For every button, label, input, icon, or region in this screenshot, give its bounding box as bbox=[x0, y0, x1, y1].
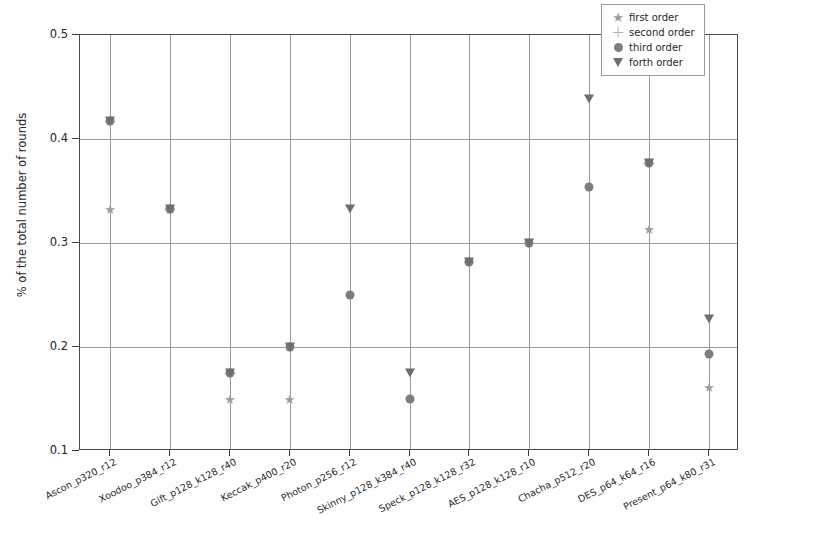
y-tick-mark bbox=[72, 34, 79, 35]
chart-figure: ＋＋＋＋＋＋＋★★★★★★ % of the total number of r… bbox=[0, 0, 813, 537]
data-point: ★ bbox=[104, 204, 116, 213]
x-tick-label: Speck_p128_k128_r32 bbox=[377, 456, 477, 514]
gridline-horizontal bbox=[80, 243, 737, 244]
data-point bbox=[405, 395, 414, 404]
legend-label: forth order bbox=[629, 57, 683, 68]
data-point bbox=[644, 158, 654, 167]
gridline-horizontal bbox=[80, 347, 737, 348]
legend-label: second order bbox=[629, 27, 695, 38]
y-tick-label: 0.3 bbox=[28, 235, 68, 249]
gridline-horizontal bbox=[80, 139, 737, 140]
gridline-vertical bbox=[410, 35, 411, 449]
x-tick-label: Skinny_p128_k384_r40 bbox=[315, 456, 418, 516]
y-tick-label: 0.2 bbox=[28, 339, 68, 353]
y-tick-label: 0.1 bbox=[28, 443, 68, 457]
x-tick-mark bbox=[169, 450, 170, 456]
y-axis-label: % of the total number of rounds bbox=[15, 35, 29, 375]
gridline-vertical bbox=[469, 35, 470, 449]
data-point bbox=[585, 182, 594, 191]
x-tick-mark bbox=[289, 450, 290, 456]
chart-legend: ★first order＋second orderthird orderfort… bbox=[601, 4, 705, 76]
data-point bbox=[464, 257, 474, 266]
data-point bbox=[705, 350, 714, 359]
gridline-vertical bbox=[350, 35, 351, 449]
data-point: ★ bbox=[703, 382, 715, 391]
data-point bbox=[704, 314, 714, 323]
data-point bbox=[345, 204, 355, 213]
data-point: ★ bbox=[284, 395, 296, 404]
legend-item[interactable]: forth order bbox=[607, 55, 695, 70]
legend-marker-icon: ＋ bbox=[607, 26, 629, 39]
x-tick-mark bbox=[528, 450, 529, 456]
y-tick-mark bbox=[72, 450, 79, 451]
legend-marker-icon bbox=[607, 41, 629, 54]
data-point bbox=[105, 117, 115, 126]
gridline-vertical bbox=[110, 35, 111, 449]
data-point bbox=[405, 369, 415, 378]
x-tick-mark bbox=[588, 450, 589, 456]
legend-marker-icon bbox=[607, 56, 629, 69]
x-tick-mark bbox=[229, 450, 230, 456]
y-tick-mark bbox=[72, 242, 79, 243]
data-point: ★ bbox=[224, 395, 236, 404]
y-tick-label: 0.5 bbox=[28, 27, 68, 41]
y-tick-mark bbox=[72, 346, 79, 347]
x-tick-mark bbox=[349, 450, 350, 456]
legend-label: third order bbox=[629, 42, 682, 53]
legend-item[interactable]: third order bbox=[607, 40, 695, 55]
data-point bbox=[584, 95, 594, 104]
gridline-vertical bbox=[290, 35, 291, 449]
gridline-vertical bbox=[230, 35, 231, 449]
data-point bbox=[345, 291, 354, 300]
data-point bbox=[285, 343, 295, 352]
x-tick-mark bbox=[109, 450, 110, 456]
data-point bbox=[524, 239, 534, 248]
plot-area: ＋＋＋＋＋＋＋★★★★★★ bbox=[79, 34, 738, 450]
gridline-vertical bbox=[170, 35, 171, 449]
data-point: ★ bbox=[643, 225, 655, 234]
x-tick-mark bbox=[648, 450, 649, 456]
data-point bbox=[165, 204, 175, 213]
data-point bbox=[225, 369, 235, 378]
gridline-vertical bbox=[649, 35, 650, 449]
legend-label: first order bbox=[629, 12, 678, 23]
legend-item[interactable]: ＋second order bbox=[607, 25, 695, 40]
legend-item[interactable]: ★first order bbox=[607, 10, 695, 25]
y-tick-mark bbox=[72, 138, 79, 139]
y-tick-label: 0.4 bbox=[28, 131, 68, 145]
x-tick-mark bbox=[708, 450, 709, 456]
x-tick-mark bbox=[468, 450, 469, 456]
legend-marker-icon: ★ bbox=[607, 11, 629, 24]
x-tick-mark bbox=[409, 450, 410, 456]
